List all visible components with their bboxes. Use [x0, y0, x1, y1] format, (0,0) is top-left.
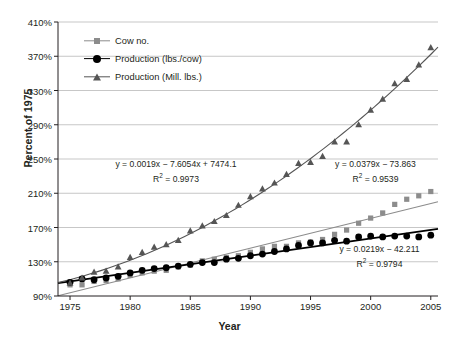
circle-marker-icon	[93, 55, 101, 63]
data-point	[391, 233, 398, 240]
data-point	[247, 193, 254, 199]
data-point	[415, 234, 422, 241]
y-tick-label: 90%	[6, 291, 52, 302]
data-point	[91, 276, 98, 283]
x-tick-label: 1985	[160, 301, 220, 312]
data-point	[259, 185, 266, 191]
data-point	[163, 264, 170, 271]
data-point	[139, 249, 146, 255]
data-point	[416, 193, 421, 198]
data-point	[127, 254, 134, 260]
data-point	[283, 246, 290, 253]
data-point	[211, 218, 218, 224]
legend-label-production-mill-lbs: Production (Mill. lbs.)	[115, 72, 202, 82]
data-point	[403, 233, 410, 240]
data-point	[187, 227, 194, 233]
legend-label-cow-no: Cow no.	[115, 36, 149, 46]
data-point	[379, 95, 386, 101]
data-point	[79, 282, 84, 287]
data-point	[271, 248, 278, 255]
data-point	[199, 222, 206, 228]
data-point	[115, 273, 122, 280]
data-point	[379, 234, 386, 241]
data-point	[403, 76, 410, 82]
x-tick-marks	[70, 296, 431, 300]
data-point	[211, 259, 218, 266]
legend: Cow no. Production (lbs./cow) Production…	[84, 33, 202, 84]
data-point	[235, 202, 242, 208]
data-point	[187, 261, 194, 268]
x-tick-label: 1995	[281, 301, 341, 312]
square-marker-icon	[94, 38, 100, 44]
data-point	[404, 197, 409, 202]
data-point	[391, 80, 398, 86]
data-point	[356, 221, 361, 226]
data-point	[151, 265, 158, 272]
annotation-r-squared: R2 = 0.9539	[308, 170, 443, 185]
data-point	[199, 259, 206, 266]
data-point	[127, 269, 134, 276]
annotation-equation: y = 0.0379x − 73.863	[335, 159, 416, 169]
y-axis-title: Percent of 1975	[22, 58, 34, 198]
y-tick-label: 130%	[6, 256, 52, 267]
data-point	[392, 202, 397, 207]
legend-item-production-lbs-cow[interactable]: Production (lbs./cow)	[84, 51, 202, 66]
data-point	[151, 244, 158, 250]
data-point	[103, 275, 110, 282]
annotation-r-squared: R2 = 0.9973	[96, 170, 256, 185]
legend-item-production-mill-lbs[interactable]: Production (Mill. lbs.)	[84, 69, 202, 84]
data-point	[427, 232, 434, 239]
annotation-r-squared: R2 = 0.9794	[312, 255, 447, 270]
data-point	[367, 233, 374, 240]
data-point	[247, 252, 254, 259]
data-point	[175, 237, 182, 243]
data-point	[295, 242, 302, 249]
y-tick-label: 410%	[6, 17, 52, 28]
x-tick-label: 1990	[220, 301, 280, 312]
data-point	[332, 232, 337, 237]
data-point	[355, 234, 362, 241]
data-point	[259, 251, 266, 258]
data-point	[368, 215, 373, 220]
data-point	[295, 160, 302, 166]
legend-item-cow-no[interactable]: Cow no.	[84, 33, 202, 48]
data-point	[235, 255, 242, 262]
data-point	[428, 189, 433, 194]
chart-figure: 90%130%170%210%250%290%330%370%410% 1975…	[0, 0, 459, 343]
triangle-marker-icon	[93, 73, 101, 80]
data-point	[223, 256, 230, 263]
annotation-linear-fit-production-lbs-cow: y = 0.0219x − 42.211 R2 = 0.9794	[312, 243, 447, 270]
x-tick-label: 2000	[341, 301, 401, 312]
data-point	[344, 227, 349, 232]
annotation-equation: y = 0.0019x − 7.6054x + 7474.1	[115, 159, 236, 169]
annotation-linear-fit-cow-no: y = 0.0379x − 73.863 R2 = 0.9539	[308, 158, 443, 185]
data-point	[380, 210, 385, 215]
x-tick-label: 2005	[401, 301, 459, 312]
legend-label-production-lbs-cow: Production (lbs./cow)	[115, 54, 202, 64]
legend-key-cow-no	[84, 35, 110, 47]
y-tick-label: 170%	[6, 222, 52, 233]
data-point	[175, 263, 182, 270]
x-tick-label: 1980	[100, 301, 160, 312]
data-point	[139, 267, 146, 274]
data-point	[427, 44, 434, 50]
legend-key-production-mill-lbs	[84, 71, 110, 83]
x-axis-title: Year	[0, 320, 459, 332]
annotation-poly-fit-production-mill-lbs: y = 0.0019x − 7.6054x + 7474.1 R2 = 0.99…	[96, 158, 256, 185]
annotation-equation: y = 0.0219x − 42.211	[339, 244, 419, 254]
data-point	[343, 138, 350, 144]
legend-key-production-lbs-cow	[84, 53, 110, 65]
x-tick-label: 1975	[40, 301, 100, 312]
